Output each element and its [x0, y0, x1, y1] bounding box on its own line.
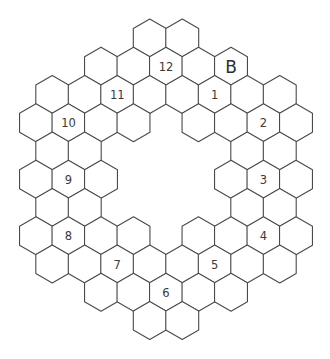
- hex-cells: 12B1111029384756: [20, 19, 313, 340]
- hex-puzzle-board: 12B1111029384756: [0, 0, 330, 359]
